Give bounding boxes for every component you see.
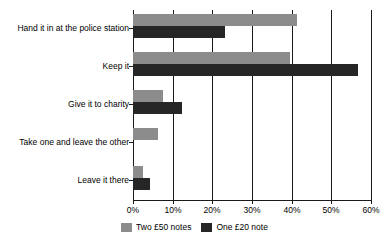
bar-group-4 xyxy=(133,162,371,200)
bar-series-0-cat-4 xyxy=(133,166,143,178)
legend-item-0: Two £50 notes xyxy=(121,222,191,232)
x-tick-label-20: 20% xyxy=(192,205,232,216)
bar-series-1-cat-2 xyxy=(133,102,182,114)
plot-area xyxy=(133,10,371,200)
legend-item-1: One £20 note xyxy=(201,222,268,232)
bar-group-3 xyxy=(133,124,371,162)
bar-chart: Hand it in at the police station Keep it… xyxy=(0,0,389,238)
category-label-3: Take one and leave the other xyxy=(0,137,129,147)
legend-label-series-1: One £20 note xyxy=(216,222,268,232)
category-label-4: Leave it there xyxy=(0,175,129,185)
x-tick-20 xyxy=(212,200,213,204)
x-tick-40 xyxy=(292,200,293,204)
x-tick-10 xyxy=(173,200,174,204)
bar-series-1-cat-1 xyxy=(133,64,358,76)
category-axis: Hand it in at the police station Keep it… xyxy=(0,10,129,200)
legend-label-series-0: Two £50 notes xyxy=(136,222,191,232)
bar-series-0-cat-0 xyxy=(133,14,297,26)
gridline-60 xyxy=(371,10,372,200)
x-tick-50 xyxy=(331,200,332,204)
x-tick-60 xyxy=(371,200,372,204)
x-tick-label-60: 60% xyxy=(351,205,389,216)
category-label-0: Hand it in at the police station xyxy=(0,23,129,33)
x-tick-0 xyxy=(133,200,134,204)
legend-swatch-series-0 xyxy=(121,223,132,232)
bar-series-0-cat-2 xyxy=(133,90,163,102)
x-tick-label-0: 0% xyxy=(113,205,153,216)
legend-swatch-series-1 xyxy=(201,223,212,232)
bar-group-0 xyxy=(133,10,371,48)
bar-series-1-cat-4 xyxy=(133,178,150,190)
chart-legend: Two £50 notes One £20 note xyxy=(0,222,389,232)
bar-group-2 xyxy=(133,86,371,124)
bar-group-1 xyxy=(133,48,371,86)
x-tick-label-50: 50% xyxy=(311,205,351,216)
x-tick-label-40: 40% xyxy=(272,205,312,216)
x-tick-label-30: 30% xyxy=(232,205,272,216)
x-tick-label-10: 10% xyxy=(153,205,193,216)
category-label-1: Keep it xyxy=(0,61,129,71)
bar-series-1-cat-0 xyxy=(133,26,225,38)
category-label-2: Give it to charity xyxy=(0,99,129,109)
x-tick-30 xyxy=(252,200,253,204)
bar-series-0-cat-3 xyxy=(133,128,158,140)
bar-series-0-cat-1 xyxy=(133,52,290,64)
